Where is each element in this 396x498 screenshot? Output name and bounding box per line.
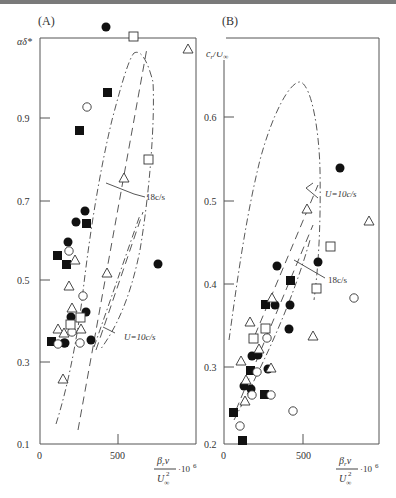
ytick-label: 0.7	[17, 196, 30, 207]
ytick-label: 0.9	[17, 113, 30, 124]
ellipse-18cs	[56, 52, 153, 424]
svg-text:βrν: βrν	[338, 455, 352, 468]
dashed-line-10cs	[96, 212, 143, 350]
svg-text:·10: ·10	[360, 464, 372, 474]
ytick-label: 0.2	[204, 439, 217, 450]
panel-a: (A) αδ* 0.9 0.7 0.5 0.3 0.1 0 500 βrν U∞…	[17, 14, 197, 487]
ytick-label: 0.3	[204, 362, 217, 373]
leader-18cs	[106, 183, 145, 197]
svg-text:2: 2	[348, 470, 352, 478]
ytick-label: 0.3	[17, 357, 30, 368]
panel-b-curves	[229, 82, 325, 420]
annotation-10cs: U=10c/s	[325, 189, 357, 199]
leader-10cs	[306, 183, 318, 198]
panel-b-label: (B)	[222, 14, 238, 28]
panel-b-markers	[229, 164, 374, 446]
svg-text:2: 2	[166, 470, 170, 478]
panel-a-label: (A)	[38, 14, 55, 28]
xtick-label: 0	[221, 450, 226, 461]
annotation-10cs: U=10c/s	[124, 332, 156, 342]
svg-text:6: 6	[375, 462, 379, 470]
xtick-label: 500	[296, 450, 311, 461]
xtick-label: 500	[110, 450, 125, 461]
dashdot-line-10cs	[94, 215, 140, 347]
svg-text:6: 6	[193, 462, 197, 470]
panel-a-markers	[47, 23, 193, 384]
ytick-label: 0.6	[204, 112, 217, 123]
svg-text:·10: ·10	[178, 464, 190, 474]
annotation-18cs: 18c/s	[328, 275, 347, 285]
xtick-label: 0	[37, 450, 42, 461]
ytick-label: 0.5	[204, 196, 217, 207]
annotation-18cs: 18c/s	[146, 192, 165, 202]
panel-b-yticks: 0.6 0.5 0.4 0.3 0.2	[204, 112, 234, 450]
panel-b-xlabel: βrν U∞ 2 ·10 6	[336, 455, 379, 487]
figure: (A) αδ* 0.9 0.7 0.5 0.3 0.1 0 500 βrν U∞…	[0, 0, 396, 498]
ytick-label: 0.4	[204, 279, 217, 290]
ytick-label: 0.5	[17, 275, 30, 286]
panel-a-xlabel: βrν U∞ 2 ·10 6	[154, 455, 197, 487]
panel-a-ylabel: αδ*	[17, 36, 32, 47]
panel-a-yticks: 0.9 0.7 0.5 0.3 0.1	[17, 113, 50, 450]
panel-b: (B) cr/U∞ 0.6 0.5 0.4 0.3 0.2 0 500 βrν …	[204, 14, 379, 487]
ytick-label: 0.1	[17, 439, 30, 450]
svg-text:βrν: βrν	[156, 455, 170, 468]
